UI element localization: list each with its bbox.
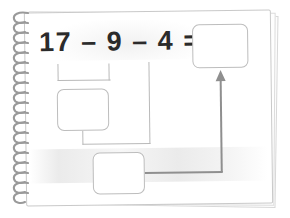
bracket-horizontal xyxy=(58,79,111,81)
final-answer-box[interactable] xyxy=(192,24,249,69)
worksheet-image: 17 – 9 – 4 = xyxy=(0,0,290,218)
connector-operand-4-stem xyxy=(148,62,150,144)
bracket-right-tick xyxy=(108,63,110,80)
connector-join-horizontal xyxy=(82,143,150,145)
arrow-head-icon xyxy=(216,70,226,81)
equation-text: 17 – 9 – 4 = xyxy=(39,25,201,58)
connector-final-horizontal xyxy=(145,171,223,173)
worksheet-content: 17 – 9 – 4 = xyxy=(0,0,290,218)
connector-first-step-stem xyxy=(82,131,84,145)
bracket-left-tick xyxy=(57,64,59,81)
second-step-answer-box[interactable] xyxy=(93,152,146,195)
connector-final-vertical xyxy=(220,79,223,172)
first-step-answer-box[interactable] xyxy=(57,88,110,131)
